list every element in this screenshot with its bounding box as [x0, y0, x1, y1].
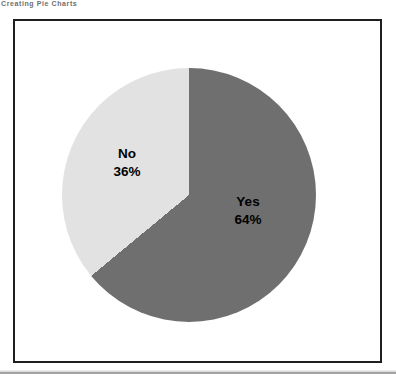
slice-percent-yes: 64% [234, 211, 261, 229]
slice-percent-no: 36% [113, 163, 140, 181]
pie-slice-label-no: No 36% [113, 145, 140, 181]
chart-frame: No 36% Yes 64% [13, 19, 382, 363]
pie-chart [62, 68, 316, 322]
pie-slice-label-yes: Yes 64% [234, 193, 261, 229]
bottom-divider [0, 370, 396, 374]
slice-name-no: No [113, 145, 140, 163]
page-header-text: Creating Pie Charts [1, 0, 77, 7]
slice-name-yes: Yes [234, 193, 261, 211]
